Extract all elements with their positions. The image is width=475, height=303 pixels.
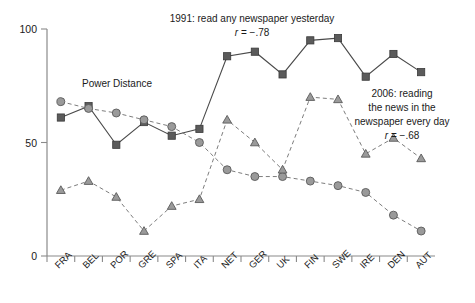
annotation-2006-line2: the news in the <box>368 102 436 113</box>
data-point-square <box>251 48 258 55</box>
data-point-triangle <box>334 95 343 103</box>
y-axis: 100 50 0 <box>19 23 47 262</box>
annotation-1991-stat-symbol: r <box>235 27 239 38</box>
data-point-square <box>196 125 203 132</box>
data-point-triangle <box>223 115 232 123</box>
data-point-triangle <box>306 93 315 101</box>
data-point-circle <box>112 109 120 117</box>
data-point-triangle <box>195 195 204 203</box>
annotation-1991-stat-value: = −.78 <box>241 27 270 38</box>
data-point-circle <box>195 139 203 147</box>
data-point-triangle <box>112 193 121 201</box>
x-axis-label-aut: AUT <box>413 249 434 270</box>
data-point-square <box>279 71 286 78</box>
data-point-circle <box>85 104 93 112</box>
x-axis-label-bel: BEL <box>80 250 100 270</box>
data-point-triangle <box>361 149 370 157</box>
data-point-square <box>418 69 425 76</box>
annotation-power-distance: Power Distance <box>82 78 152 89</box>
y-axis-label-0: 0 <box>31 250 37 262</box>
x-axis-label-net: NET <box>219 249 240 270</box>
data-point-circle <box>140 116 148 124</box>
x-axis-labels: FRABELPORGRESPAITANETGERUKFINSWEIREDENAU… <box>52 247 434 270</box>
x-axis-label-fra: FRA <box>52 249 74 271</box>
data-point-square <box>168 132 175 139</box>
data-point-circle <box>389 211 397 219</box>
annotation-series-1991: 1991: read any newspaper yesterday r= −.… <box>170 13 335 38</box>
series-layer <box>56 34 425 235</box>
x-axis-label-spa: SPA <box>163 249 184 270</box>
x-axis-label-gre: GRE <box>136 248 158 270</box>
annotation-2006-line1: 2006: reading <box>371 88 432 99</box>
annotation-2006-stat-value: = −.68 <box>391 130 420 141</box>
annotation-power-distance-label: Power Distance <box>82 78 152 89</box>
x-axis: FRABELPORGRESPAITANETGERUKFINSWEIREDENAU… <box>47 247 435 270</box>
data-point-triangle <box>84 177 93 185</box>
data-point-square <box>57 114 64 121</box>
data-point-triangle <box>417 154 426 162</box>
x-axis-label-swe: SWE <box>330 247 353 270</box>
x-axis-label-ire: IRE <box>357 251 376 270</box>
series-1 <box>57 34 424 148</box>
line-chart: 100 50 0 FRABELPORGRESPAITANETGERUKFINSW… <box>0 0 475 303</box>
data-point-circle <box>57 98 65 106</box>
x-axis-label-ger: GER <box>246 248 268 270</box>
x-axis-label-den: DEN <box>385 248 407 270</box>
data-point-circle <box>306 177 314 185</box>
annotation-2006-line3: newspaper every day <box>354 116 449 127</box>
x-axis-label-ita: ITA <box>191 252 209 270</box>
y-axis-label-50: 50 <box>25 137 37 149</box>
annotation-1991-stat: r= −.78 <box>235 27 270 38</box>
data-point-square <box>307 37 314 44</box>
data-point-square <box>113 141 120 148</box>
y-axis-label-100: 100 <box>19 23 37 35</box>
data-point-square <box>224 53 231 60</box>
data-point-circle <box>362 188 370 196</box>
data-point-triangle <box>250 138 259 146</box>
chart-container: 100 50 0 FRABELPORGRESPAITANETGERUKFINSW… <box>0 0 475 303</box>
x-axis-label-fin: FIN <box>302 252 321 271</box>
data-point-circle <box>251 173 259 181</box>
data-point-triangle <box>167 202 176 210</box>
data-point-square <box>362 73 369 80</box>
data-point-circle <box>417 227 425 235</box>
data-point-circle <box>223 166 231 174</box>
data-point-square <box>334 34 341 41</box>
annotation-1991-line1: 1991: read any newspaper yesterday <box>170 13 335 24</box>
data-point-circle <box>334 182 342 190</box>
data-point-circle <box>168 123 176 131</box>
series-line <box>61 38 421 145</box>
data-point-square <box>390 50 397 57</box>
x-axis-label-por: POR <box>108 248 130 270</box>
annotation-series-2006: 2006: reading the news in the newspaper … <box>354 88 449 141</box>
annotation-2006-stat-symbol: r <box>385 130 389 141</box>
data-point-circle <box>279 173 287 181</box>
series-3 <box>56 93 425 235</box>
